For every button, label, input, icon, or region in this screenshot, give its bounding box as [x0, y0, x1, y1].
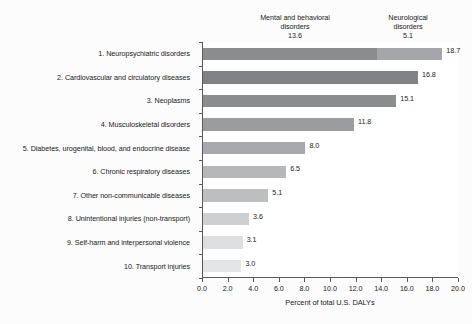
bar-row: 11.8 — [203, 113, 458, 137]
y-axis-tick — [199, 89, 204, 90]
x-axis-tick — [253, 278, 254, 282]
category-axis-labels: 1. Neuropsychiatric disorders2. Cardiova… — [0, 42, 196, 278]
annotation-line-1: Neurological — [388, 13, 427, 22]
bar-row: 3.6 — [203, 207, 458, 231]
x-axis-tick — [279, 278, 280, 282]
bar-row: 3.0 — [203, 254, 458, 278]
bar-segment[interactable] — [203, 260, 241, 272]
bar-segment[interactable] — [203, 142, 305, 154]
bar[interactable] — [203, 189, 268, 201]
bar-segment[interactable] — [203, 118, 354, 130]
bar[interactable] — [203, 95, 396, 107]
bar[interactable] — [203, 118, 354, 130]
bar-chart: Mental and behavioral disorders 13.6 Neu… — [0, 0, 472, 324]
bar-value-label: 3.6 — [253, 212, 263, 221]
y-axis-tick — [199, 136, 204, 137]
bar[interactable] — [203, 71, 418, 83]
category-label: 2. Cardiovascular and circulatory diseas… — [57, 73, 190, 82]
category-label: 1. Neuropsychiatric disorders — [98, 49, 190, 58]
bar-value-label: 8.0 — [309, 141, 319, 150]
x-axis-tick — [304, 278, 305, 282]
bar-segment[interactable] — [203, 95, 396, 107]
y-axis-tick — [199, 42, 204, 43]
bar-value-label: 6.5 — [290, 164, 300, 173]
annotation-line-2: disorders — [280, 22, 309, 31]
bar[interactable] — [203, 260, 241, 272]
x-axis-tick — [458, 278, 459, 282]
category-label: 9. Self-harm and interpersonal violence — [67, 238, 190, 247]
bar-segment[interactable] — [203, 166, 286, 178]
x-axis-tick-label: 20.0 — [443, 284, 472, 293]
x-axis-tick — [356, 278, 357, 282]
bar-segment[interactable] — [203, 213, 249, 225]
annotation-value: 5.1 — [358, 31, 458, 40]
y-axis-tick — [199, 207, 204, 208]
bar-row: 3.1 — [203, 231, 458, 255]
bar-segment[interactable] — [203, 71, 418, 83]
bar-value-label: 15.1 — [400, 94, 414, 103]
category-label: 4. Musculoskeletal disorders — [101, 120, 190, 129]
bar-row: 5.1 — [203, 184, 458, 208]
x-axis-title: Percent of total U.S. DALYs — [202, 298, 458, 307]
y-axis-tick — [199, 160, 204, 161]
bar[interactable] — [203, 48, 442, 60]
x-axis-tick — [202, 278, 203, 282]
bar-row: 8.0 — [203, 136, 458, 160]
x-axis-tick — [432, 278, 433, 282]
annotation-line-1: Mental and behavioral — [260, 13, 330, 22]
bar-value-label: 5.1 — [272, 188, 282, 197]
x-axis-tick — [381, 278, 382, 282]
bar-value-label: 11.8 — [358, 117, 371, 126]
category-label: 5. Diabetes, urogenital, blood, and endo… — [23, 144, 190, 153]
bar-segment[interactable] — [377, 48, 442, 60]
y-axis-tick — [199, 184, 204, 185]
category-label: 3. Neoplasms — [147, 96, 190, 105]
y-axis-tick — [199, 113, 204, 114]
bar[interactable] — [203, 166, 286, 178]
annotation-mental-and-behavioral-disorders: Mental and behavioral disorders 13.6 — [232, 13, 358, 41]
bar-row: 18.7 — [203, 42, 458, 66]
bar-segment[interactable] — [203, 189, 268, 201]
bar[interactable] — [203, 142, 305, 154]
category-label: 6. Chronic respiratory diseases — [92, 167, 190, 176]
bar-value-label: 18.7 — [446, 46, 460, 55]
bar-segment[interactable] — [203, 48, 377, 60]
y-axis-tick — [199, 231, 204, 232]
bar-value-label: 3.0 — [245, 259, 255, 268]
category-label: 8. Unintentional injuries (non-transport… — [68, 214, 190, 223]
bar[interactable] — [203, 236, 243, 248]
bar-row: 16.8 — [203, 66, 458, 90]
bar-row: 15.1 — [203, 89, 458, 113]
x-axis-tick — [330, 278, 331, 282]
x-axis-tick — [228, 278, 229, 282]
x-axis-tick — [407, 278, 408, 282]
category-label: 10. Transport injuries — [124, 262, 190, 271]
y-axis-tick — [199, 66, 204, 67]
annotation-value: 13.6 — [232, 31, 358, 40]
bar-segment[interactable] — [203, 236, 243, 248]
bar[interactable] — [203, 213, 249, 225]
bar-value-label: 16.8 — [422, 70, 436, 79]
category-label: 7. Other non-communicable diseases — [73, 191, 190, 200]
annotation-line-2: disorders — [393, 22, 422, 31]
bar-value-label: 3.1 — [247, 235, 257, 244]
plot-area: 18.716.815.111.88.06.55.13.63.13.0 — [202, 42, 458, 278]
y-axis-tick — [199, 254, 204, 255]
annotation-neurological-disorders: Neurological disorders 5.1 — [358, 13, 458, 41]
bar-row: 6.5 — [203, 160, 458, 184]
